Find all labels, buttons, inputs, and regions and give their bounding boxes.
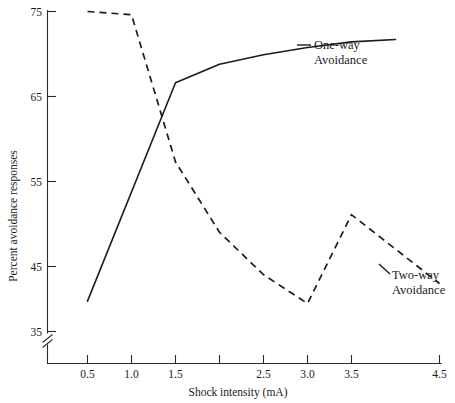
y-axis-tick-labels: 75 65 55 45 35 xyxy=(31,6,43,338)
y-tick-label-55: 55 xyxy=(31,176,43,188)
two-way-leader-line xyxy=(379,264,390,274)
y-tick-label-45: 45 xyxy=(31,261,43,273)
x-tick-label-2-5: 2.5 xyxy=(256,368,271,380)
x-tick-label-3-0: 3.0 xyxy=(300,368,315,380)
x-tick-label-1-5: 1.5 xyxy=(168,368,183,380)
axes-group xyxy=(43,11,442,364)
two-way-label-line2: Avoidance xyxy=(392,283,446,297)
avoidance-responses-line-chart: 75 65 55 45 35 0.5 1.0 1.5 2.5 3.0 3.5 4… xyxy=(0,0,455,403)
x-axis-tick-labels: 0.5 1.0 1.5 2.5 3.0 3.5 4.5 xyxy=(80,368,447,380)
y-tick-label-65: 65 xyxy=(31,91,43,103)
y-tick-label-35: 35 xyxy=(31,326,43,338)
y-axis-title: Percent avoidance responses xyxy=(7,150,20,282)
x-axis-title: Shock intensity (mA) xyxy=(188,386,287,399)
series-label-two-way-avoidance: Two-way Avoidance xyxy=(379,264,446,297)
x-tick-label-3-5: 3.5 xyxy=(344,368,359,380)
y-tick-label-75: 75 xyxy=(31,6,43,18)
two-way-label-line1: Two-way xyxy=(392,268,440,282)
x-tick-label-1-0: 1.0 xyxy=(124,368,139,380)
series-label-one-way-avoidance: One-way Avoidance xyxy=(297,38,368,67)
x-tick-label-4-5: 4.5 xyxy=(432,368,447,380)
series-line-one-way-avoidance xyxy=(88,40,396,302)
y-axis-ticks xyxy=(48,12,57,332)
x-tick-label-0-5: 0.5 xyxy=(80,368,95,380)
x-axis-ticks xyxy=(88,355,440,364)
one-way-label-line2: Avoidance xyxy=(314,53,368,67)
one-way-label-line1: One-way xyxy=(314,38,361,52)
chart-figure: 75 65 55 45 35 0.5 1.0 1.5 2.5 3.0 3.5 4… xyxy=(0,0,455,403)
